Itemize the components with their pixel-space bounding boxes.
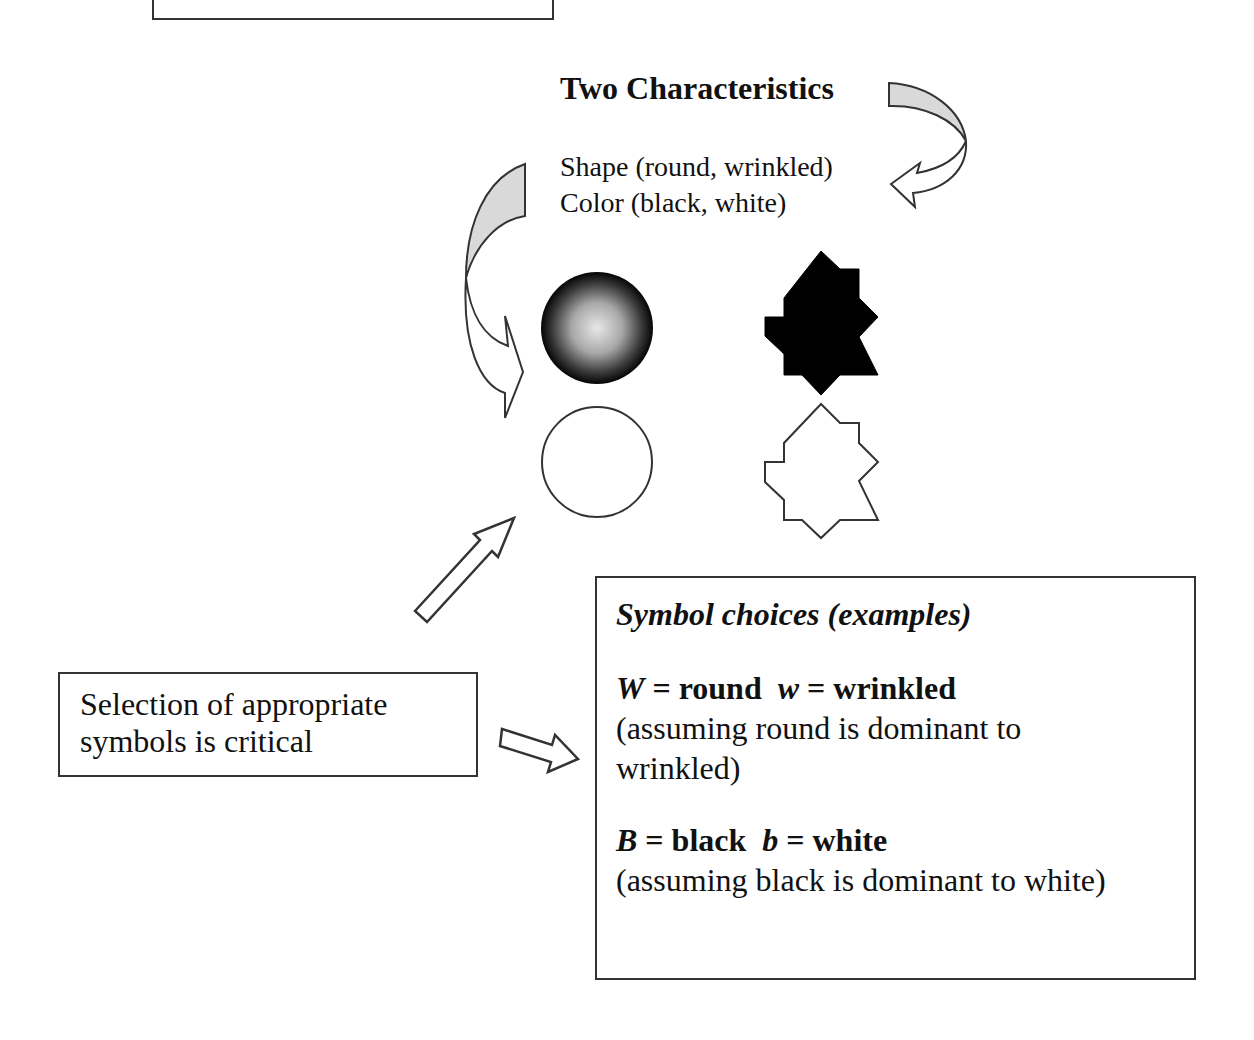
shape-note-line2: wrinkled) <box>616 748 1194 788</box>
color-dominant-symbol: B <box>616 822 637 858</box>
symbol-choices-heading: Symbol choices (examples) <box>616 594 1194 634</box>
color-dominant-text: = black <box>637 822 762 858</box>
round-white-pea <box>542 407 652 517</box>
symbol-choices-box: Symbol choices (examples) W = round w = … <box>595 576 1196 980</box>
selection-note-line1: Selection of appropriate <box>80 686 476 723</box>
shape-dominant-text: = round <box>644 670 777 706</box>
selection-note-box: Selection of appropriate symbols is crit… <box>58 672 478 777</box>
color-recessive-text: = white <box>778 822 887 858</box>
curved-arrow-left-icon <box>465 164 525 418</box>
color-note-line1: (assuming black is dominant to white) <box>616 860 1194 900</box>
shape-symbol-rule: W = round w = wrinkled <box>616 668 1194 708</box>
right-arrow-icon <box>500 729 578 772</box>
color-symbol-rule: B = black b = white <box>616 820 1194 860</box>
round-black-pea <box>541 272 653 384</box>
curved-arrow-right-icon <box>889 83 966 207</box>
wrinkled-black-pea <box>765 251 878 395</box>
wrinkled-white-pea <box>765 404 878 538</box>
color-recessive-symbol: b <box>762 822 778 858</box>
shape-note-line1: (assuming round is dominant to <box>616 708 1194 748</box>
shape-dominance-note: (assuming round is dominant to wrinkled) <box>616 708 1194 788</box>
shape-dominant-symbol: W <box>616 670 644 706</box>
shape-recessive-text: = wrinkled <box>799 670 956 706</box>
color-dominance-note: (assuming black is dominant to white) <box>616 860 1194 900</box>
selection-note-line2: symbols is critical <box>80 723 476 760</box>
diagonal-arrow-icon <box>415 518 514 622</box>
shape-recessive-symbol: w <box>778 670 799 706</box>
